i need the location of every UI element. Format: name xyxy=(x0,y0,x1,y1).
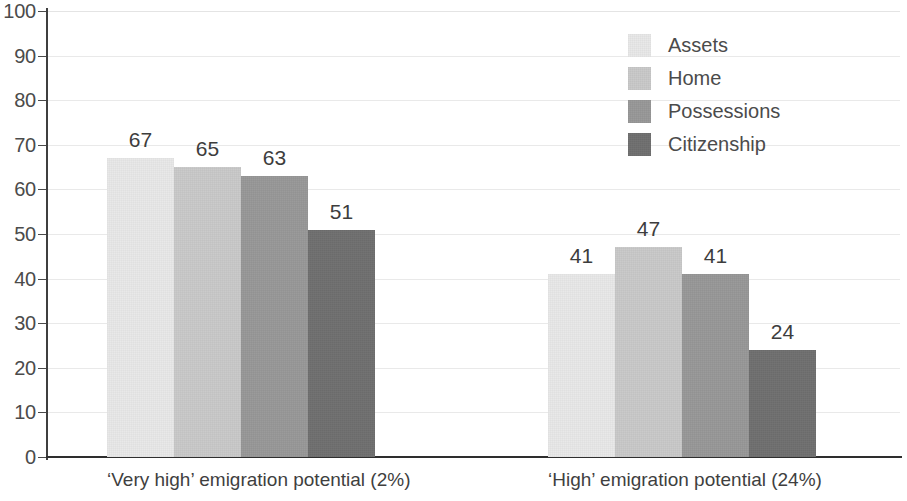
bar-home-group-1 xyxy=(174,167,241,457)
bar-value-label: 63 xyxy=(241,147,308,168)
swatch-texture xyxy=(628,133,651,156)
y-axis-label-100: 100 xyxy=(0,1,36,21)
legend-label: Possessions xyxy=(668,100,780,123)
legend-swatch-icon xyxy=(628,67,651,90)
y-axis-label-10: 10 xyxy=(0,402,36,422)
bar-value-label: 47 xyxy=(615,218,682,239)
bar-texture xyxy=(107,158,174,457)
y-axis-label-20: 20 xyxy=(0,358,36,378)
swatch-texture xyxy=(628,100,651,123)
bar-texture xyxy=(749,350,816,457)
bar-citizenship-group-1 xyxy=(308,230,375,457)
y-axis-label-40: 40 xyxy=(0,269,36,289)
bar-home-group-2 xyxy=(615,247,682,457)
gridline-90 xyxy=(48,56,900,57)
bar-assets-group-2 xyxy=(548,274,615,457)
y-axis-label-50: 50 xyxy=(0,224,36,244)
bar-chart: 1009080706050403020100 6765635141474124 … xyxy=(0,0,907,501)
y-axis-label-30: 30 xyxy=(0,313,36,333)
bar-value-label: 41 xyxy=(548,245,615,266)
category-label-1: ‘Very high’ emigration potential (2%) xyxy=(107,470,375,489)
bar-texture xyxy=(615,247,682,457)
bar-assets-group-1 xyxy=(107,158,174,457)
legend-label: Home xyxy=(668,67,721,90)
bar-value-label: 67 xyxy=(107,129,174,150)
legend-swatch-icon xyxy=(628,34,651,57)
bar-citizenship-group-2 xyxy=(749,350,816,457)
swatch-texture xyxy=(628,67,651,90)
legend-label: Assets xyxy=(668,34,728,57)
y-axis-label-70: 70 xyxy=(0,135,36,155)
bar-value-label: 41 xyxy=(682,245,749,266)
category-label-2: ‘High’ emigration potential (24%) xyxy=(548,470,816,489)
swatch-texture xyxy=(628,34,651,57)
bar-texture xyxy=(308,230,375,457)
legend-swatch-icon xyxy=(628,100,651,123)
bar-texture xyxy=(548,274,615,457)
y-axis-label-0: 0 xyxy=(0,447,36,467)
bar-texture xyxy=(682,274,749,457)
y-axis-label-60: 60 xyxy=(0,179,36,199)
bar-possessions-group-2 xyxy=(682,274,749,457)
legend-label: Citizenship xyxy=(668,133,766,156)
gridline-100 xyxy=(48,11,900,12)
bar-texture xyxy=(174,167,241,457)
bar-value-label: 24 xyxy=(749,321,816,342)
y-axis-line xyxy=(46,8,48,460)
bar-texture xyxy=(241,176,308,457)
bar-value-label: 65 xyxy=(174,138,241,159)
y-axis-label-90: 90 xyxy=(0,46,36,66)
legend-swatch-icon xyxy=(628,133,651,156)
y-axis-label-80: 80 xyxy=(0,90,36,110)
bar-value-label: 51 xyxy=(308,201,375,222)
bar-possessions-group-1 xyxy=(241,176,308,457)
